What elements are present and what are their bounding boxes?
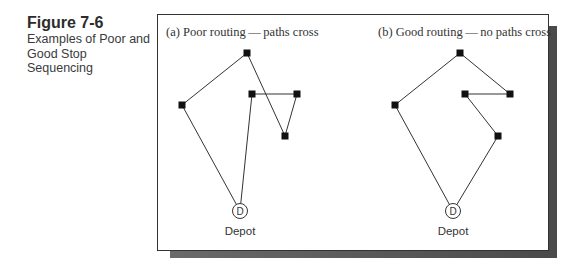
stop-marker-left <box>179 102 186 109</box>
panel-a-title: (a) Poor routing — paths cross <box>166 25 319 39</box>
depot-label: Depot <box>438 225 469 237</box>
stop-marker-left <box>392 102 399 109</box>
route-segment-bottom-to-depot <box>457 136 498 205</box>
depot-letter: D <box>236 206 243 217</box>
panel-b-title: (b) Good routing — no paths cross <box>378 25 551 39</box>
route-segment-bottom-to-right <box>285 94 297 136</box>
panel-a-depot: D Depot <box>225 204 256 238</box>
route-segment-top-to-right <box>460 53 510 94</box>
stop-marker-bottom <box>282 133 289 140</box>
route-segment-middle-to-bottom <box>465 94 498 136</box>
route-segment-left-to-top <box>182 53 247 105</box>
stop-marker-bottom <box>495 133 502 140</box>
route-segment-depot-to-left <box>395 105 449 204</box>
depot-label: Depot <box>225 225 256 237</box>
panel-b: (b) Good routing — no paths cross D Depo… <box>378 25 551 237</box>
panel-a: (a) Poor routing — paths cross D Depot <box>166 25 319 237</box>
depot-letter: D <box>449 206 456 217</box>
panel-b-depot: D Depot <box>438 204 469 238</box>
route-segment-left-to-top <box>395 53 460 105</box>
stop-marker-top <box>244 50 251 57</box>
routing-diagram: (a) Poor routing — paths cross D Depot (… <box>0 0 584 267</box>
stop-marker-right <box>294 91 301 98</box>
stop-marker-middle <box>249 91 256 98</box>
stop-marker-right <box>507 91 514 98</box>
stop-marker-top <box>457 50 464 57</box>
route-segment-middle-to-depot <box>241 94 252 204</box>
panel-a-route <box>182 53 297 204</box>
panel-b-route <box>395 53 510 205</box>
stop-marker-middle <box>462 91 469 98</box>
route-segment-depot-to-left <box>182 105 236 204</box>
